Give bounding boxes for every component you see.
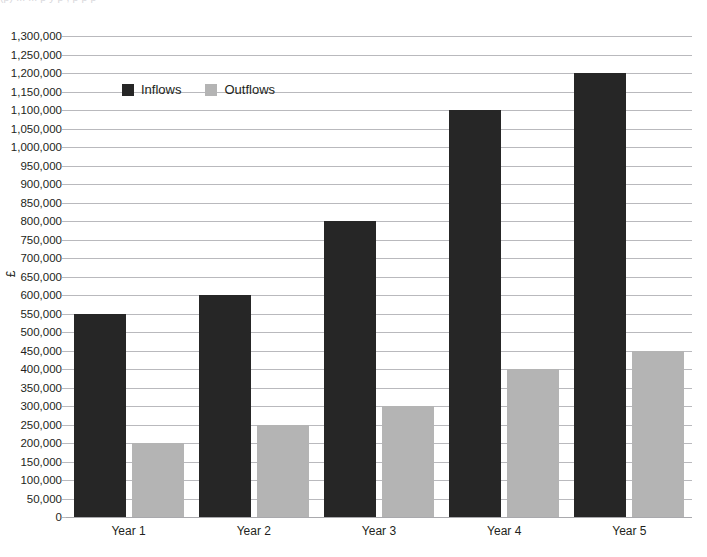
y-axis-tick-label: 1,000,000: [11, 141, 62, 153]
legend-swatch-inflows: [122, 84, 134, 96]
y-axis-tick-label: 250,000: [20, 419, 62, 431]
y-axis-tick-mark: [62, 73, 66, 74]
y-axis-tick-label: 550,000: [20, 308, 62, 320]
y-axis-tick-mark: [62, 351, 66, 352]
y-axis-tick-mark: [62, 36, 66, 37]
bar-inflows-year-1: [74, 314, 126, 518]
bar-inflows-year-2: [199, 295, 251, 517]
x-axis-tick-label: Year 1: [111, 523, 145, 539]
bar-outflows-year-1: [132, 443, 184, 517]
x-axis-tick-labels: Year 1Year 2Year 3Year 4Year 5: [66, 523, 692, 543]
legend-label-inflows: Inflows: [141, 83, 181, 97]
legend-item-outflows[interactable]: Outflows: [205, 83, 275, 97]
x-axis-tick-label: Year 5: [612, 523, 646, 539]
y-axis-tick-label: 500,000: [20, 326, 62, 338]
chart-legend: InflowsOutflows: [122, 82, 275, 98]
y-axis-tick-mark: [62, 499, 66, 500]
y-axis-tick-label: 1,200,000: [11, 67, 62, 79]
y-axis-tick-mark: [62, 480, 66, 481]
y-axis-tick-label: 300,000: [20, 400, 62, 412]
y-axis-tick-mark: [62, 203, 66, 204]
y-axis-tick-mark: [62, 517, 66, 518]
legend-swatch-outflows: [205, 84, 217, 96]
y-axis-tick-label: 50,000: [27, 493, 62, 505]
y-axis-tick-label: 450,000: [20, 345, 62, 357]
y-axis-tick-mark: [62, 295, 66, 296]
y-axis-tick-label: 150,000: [20, 456, 62, 468]
y-axis-tick-label: 1,150,000: [11, 86, 62, 98]
y-axis-tick-mark: [62, 314, 66, 315]
y-axis-tick-label: 1,100,000: [11, 104, 62, 116]
y-axis-tick-mark: [62, 129, 66, 130]
y-axis-tick-label: 950,000: [20, 160, 62, 172]
y-axis-tick-label: 750,000: [20, 234, 62, 246]
y-axis-tick-mark: [62, 332, 66, 333]
y-axis-tick-mark: [62, 462, 66, 463]
bar-outflows-year-2: [257, 425, 309, 518]
y-axis-tick-label: 850,000: [20, 197, 62, 209]
cash-flow-bar-chart: (p) ... ... p y p , p p p £ 1,300,0001,2…: [0, 0, 707, 557]
y-axis-tick-label: 1,250,000: [11, 49, 62, 61]
bar-inflows-year-3: [324, 221, 376, 517]
y-axis-tick-mark: [62, 240, 66, 241]
y-axis-tick-mark: [62, 221, 66, 222]
y-axis-tick-label: 350,000: [20, 382, 62, 394]
legend-label-outflows: Outflows: [224, 83, 275, 97]
x-axis-tick-label: Year 4: [487, 523, 521, 539]
y-axis-tick-labels: 1,300,0001,250,0001,200,0001,150,0001,10…: [0, 36, 62, 517]
y-axis-tick-mark: [62, 258, 66, 259]
clipped-top-text: (p) ... ... p y p , p p p: [0, 0, 707, 3]
gridline: [66, 55, 692, 56]
y-axis-tick-label: 400,000: [20, 363, 62, 375]
y-axis-tick-label: 200,000: [20, 437, 62, 449]
y-axis-tick-label: 600,000: [20, 289, 62, 301]
bar-inflows-year-5: [574, 73, 626, 517]
axis-baseline: [66, 517, 692, 518]
legend-item-inflows[interactable]: Inflows: [122, 83, 181, 97]
x-axis-tick-label: Year 3: [362, 523, 396, 539]
bar-outflows-year-3: [382, 406, 434, 517]
y-axis-tick-label: 100,000: [20, 474, 62, 486]
plot-area: [66, 36, 692, 517]
bar-outflows-year-4: [507, 369, 559, 517]
bar-outflows-year-5: [632, 351, 684, 518]
y-axis-tick-label: 1,300,000: [11, 30, 62, 42]
x-axis-tick-label: Year 2: [237, 523, 271, 539]
y-axis-tick-mark: [62, 425, 66, 426]
y-axis-tick-mark: [62, 406, 66, 407]
y-axis-tick-mark: [62, 147, 66, 148]
y-axis-tick-mark: [62, 92, 66, 93]
y-axis-tick-mark: [62, 443, 66, 444]
y-axis-tick-mark: [62, 166, 66, 167]
y-axis-tick-label: 650,000: [20, 271, 62, 283]
gridline: [66, 36, 692, 37]
y-axis-tick-label: 800,000: [20, 215, 62, 227]
y-axis-tick-mark: [62, 110, 66, 111]
bar-inflows-year-4: [449, 110, 501, 517]
y-axis-tick-mark: [62, 277, 66, 278]
y-axis-tick-label: 900,000: [20, 178, 62, 190]
y-axis-tick-mark: [62, 369, 66, 370]
y-axis-tick-label: 700,000: [20, 252, 62, 264]
y-axis-tick-mark: [62, 55, 66, 56]
y-axis-tick-label: 1,050,000: [11, 123, 62, 135]
y-axis-tick-mark: [62, 184, 66, 185]
y-axis-tick-mark: [62, 388, 66, 389]
